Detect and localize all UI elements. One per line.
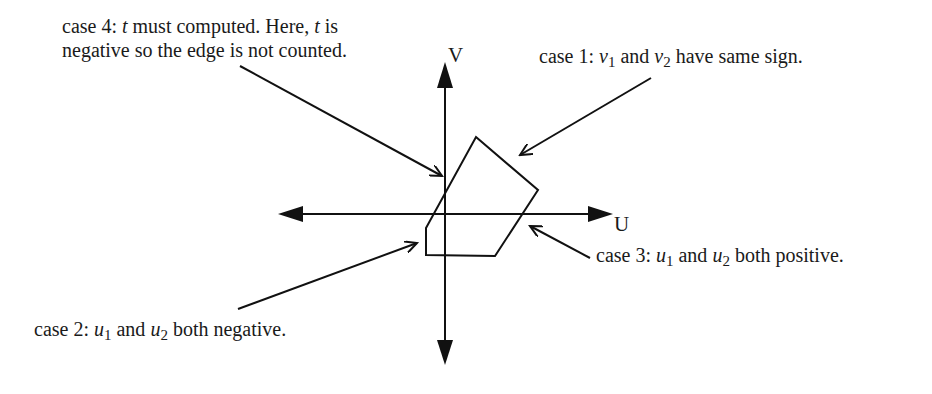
case2-suffix: both negative. [168,318,286,340]
u-axis-right-arrowhead-icon [588,206,613,222]
case3-prefix: case 3: [596,244,656,266]
case1-sub2: 2 [663,54,671,70]
case1-mid: and [615,45,654,67]
u-axis-left-arrowhead-icon [278,206,303,222]
case2-mid: and [111,318,150,340]
case3-sub2: 2 [722,253,730,269]
case4-text-line2: negative so the edge is not counted. [62,39,347,61]
case1-prefix: case 1: [539,45,599,67]
case2-var2: u [150,318,160,340]
case1-annotation: case 1: v1 and v2 have same sign. [539,44,803,68]
case4-annotation: case 4: t must computed. Here, t is nega… [62,14,347,62]
case3-annotation: case 3: u1 and u2 both positive. [596,243,844,267]
case4-text-a: case 4: [62,15,122,37]
case1-leader-arrow [520,78,651,155]
case1-var1: v [599,45,608,67]
case3-suffix: both positive. [730,244,844,266]
u-axis-label: U [614,213,629,235]
case2-sub2: 2 [160,327,168,343]
case3-var1: u [656,244,666,266]
v-axis-down-arrowhead-icon [437,340,453,365]
case2-var1: u [94,318,104,340]
case3-leader-arrow [530,226,590,258]
case4-text-b: must computed. Here, [128,15,315,37]
case2-prefix: case 2: [34,318,94,340]
case3-mid: and [673,244,712,266]
case2-annotation: case 2: u1 and u2 both negative. [34,317,286,341]
case2-leader-arrow [238,243,417,309]
case1-var2: v [654,45,663,67]
case3-var2: u [712,244,722,266]
v-axis-label: V [448,44,463,66]
case4-text-c: is [320,15,338,37]
case4-leader-arrow [240,66,442,176]
case1-suffix: have same sign. [671,45,803,67]
